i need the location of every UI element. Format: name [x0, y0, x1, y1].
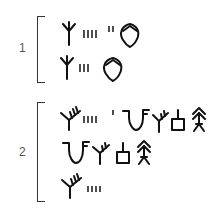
fir-sign-icon	[138, 141, 150, 164]
branched-tree-sign-icon	[62, 174, 81, 198]
tally-4-icon	[84, 116, 96, 123]
vessel-sign-icon	[104, 58, 121, 81]
group-2-line-1	[61, 107, 205, 132]
tally-4-icon	[84, 30, 96, 38]
group-1-line-1	[63, 22, 138, 47]
group-1-line-2	[61, 56, 121, 81]
branched-tree-sign-icon	[153, 111, 168, 132]
tally-4-icon	[88, 186, 100, 192]
inscription-glyphs	[0, 0, 224, 214]
box-stem-sign-icon	[117, 143, 129, 163]
branched-tree-sign-icon	[61, 107, 80, 130]
v-hook-sign-icon	[63, 142, 89, 163]
v-hook-sign-icon	[123, 110, 149, 130]
branched-tree-sign-icon	[93, 143, 109, 164]
fir-sign-icon	[193, 108, 205, 131]
vessel-sign-icon	[121, 24, 138, 47]
group-2-line-2	[63, 141, 150, 164]
box-stem-sign-icon	[172, 110, 184, 130]
group-2-line-3	[62, 174, 100, 198]
tree-sign-icon	[63, 22, 75, 45]
tally-2-icon	[109, 26, 113, 32]
tree-sign-icon	[61, 56, 73, 79]
tally-3-icon	[80, 64, 88, 72]
